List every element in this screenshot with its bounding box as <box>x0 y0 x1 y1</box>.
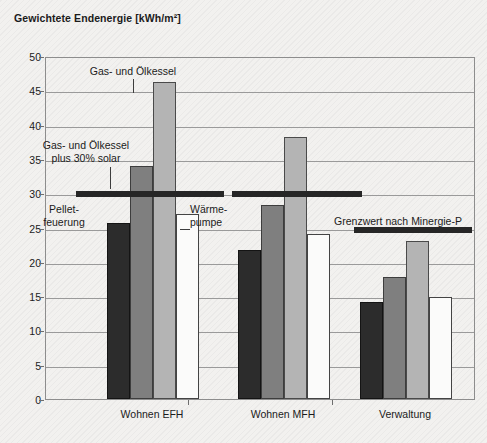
y-axis-tick-label: 5 <box>7 360 41 372</box>
y-axis-tick-label: 30 <box>7 188 41 200</box>
bar <box>383 277 406 399</box>
y-axis-tick-label: 20 <box>7 257 41 269</box>
bar <box>130 166 153 399</box>
gridline <box>46 92 474 93</box>
y-axis: 05101520253035404550 <box>0 57 41 400</box>
y-axis-tick-label: 10 <box>7 325 41 337</box>
y-axis-tick-label: 45 <box>7 85 41 97</box>
bar <box>406 241 429 399</box>
annotation-heat-pump: Wärme-pumpe <box>190 203 227 229</box>
y-axis-tick-mark <box>39 57 44 58</box>
bar <box>238 250 261 399</box>
annotation-pellet-heating: Pellet-feuerung <box>43 203 84 229</box>
annotation-line: Pellet- <box>43 203 84 216</box>
y-axis-tick-label: 25 <box>7 223 41 235</box>
y-axis-tick-label: 0 <box>7 394 41 406</box>
bar <box>153 82 176 399</box>
chart-title: Gewichtete Endenergie [kWh/m²] <box>14 12 181 24</box>
y-axis-tick-label: 40 <box>7 120 41 132</box>
chart-figure: Gewichtete Endenergie [kWh/m²] 051015202… <box>0 0 487 443</box>
leader-line <box>110 167 111 189</box>
annotation-minergie-p-limit: Grenzwert nach Minergie-P <box>334 215 462 228</box>
category-label-wohnen-efh: Wohnen EFH <box>121 408 184 420</box>
annotation-line: Gas- und Ölkessel <box>43 139 129 152</box>
y-axis-tick-mark <box>39 400 44 401</box>
annotation-line: pumpe <box>190 216 227 229</box>
plot-area <box>45 57 475 400</box>
y-axis-tick-mark <box>39 366 44 367</box>
annotation-gas-oil-boiler-solar: Gas- und Ölkesselplus 30% solar <box>43 139 129 165</box>
annotation-line: feuerung <box>43 216 84 229</box>
bar <box>360 302 383 399</box>
y-axis-tick-mark <box>39 91 44 92</box>
category-label-verwaltung: Verwaltung <box>379 408 431 420</box>
threshold-line <box>76 191 224 197</box>
bar <box>107 223 130 399</box>
annotation-line: Wärme- <box>190 203 227 216</box>
x-axis-tick-mark <box>332 400 333 405</box>
y-axis-tick-mark <box>39 126 44 127</box>
y-axis-tick-mark <box>39 263 44 264</box>
bar <box>307 234 330 399</box>
x-axis-tick-mark <box>188 400 189 405</box>
y-axis-tick-label: 35 <box>7 154 41 166</box>
bar <box>284 137 307 399</box>
bar <box>261 205 284 399</box>
y-axis-tick-mark <box>39 194 44 195</box>
category-label-wohnen-mfh: Wohnen MFH <box>251 408 316 420</box>
annotation-line: plus 30% solar <box>43 152 129 165</box>
annotation-gas-oil-boiler: Gas- und Ölkessel <box>90 65 176 78</box>
bar <box>176 214 199 399</box>
y-axis-tick-mark <box>39 331 44 332</box>
threshold-line <box>232 191 362 197</box>
y-axis-tick-label: 50 <box>7 51 41 63</box>
y-axis-tick-label: 15 <box>7 291 41 303</box>
bar <box>429 297 452 399</box>
y-axis-tick-mark <box>39 297 44 298</box>
gridline <box>46 127 474 128</box>
leader-line <box>133 79 134 93</box>
y-axis-tick-mark <box>39 229 44 230</box>
leader-line <box>180 229 190 230</box>
